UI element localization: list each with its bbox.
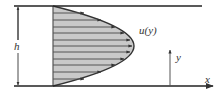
velocity-profile-diagram <box>0 0 221 95</box>
x-axis-label: x <box>205 74 210 85</box>
y-axis-label: y <box>176 52 181 63</box>
height-label: h <box>14 41 20 52</box>
velocity-label: u(y) <box>139 25 157 36</box>
